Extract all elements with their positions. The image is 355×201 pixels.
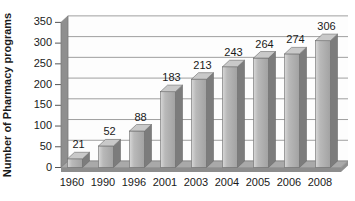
y-axis-title: Number of Pharmacy programs — [1, 13, 13, 177]
bar-value-label: 183 — [162, 71, 180, 83]
bar-front-face — [285, 54, 300, 168]
bar-front-face — [99, 146, 114, 168]
bar-front-face — [316, 41, 331, 168]
bar-side-face — [207, 73, 214, 168]
bar-value-label: 213 — [193, 59, 211, 71]
bar-front-face — [161, 92, 176, 168]
y-tick-label: 300 — [34, 36, 52, 48]
y-tick-label: 200 — [34, 78, 52, 90]
bar-front-face — [223, 67, 238, 168]
floor-front-edge — [61, 168, 341, 173]
bar-front-face — [130, 131, 145, 167]
bar-side-face — [238, 60, 245, 167]
x-axis-label: 1996 — [122, 176, 146, 188]
bar-side-face — [269, 52, 276, 168]
x-axis-label: 2006 — [277, 176, 301, 188]
x-axis-label: 1990 — [91, 176, 115, 188]
y-tick-label: 350 — [34, 15, 52, 27]
x-axis-label: 2001 — [153, 176, 177, 188]
x-axis-label: 2004 — [215, 176, 239, 188]
bar-front-face — [254, 58, 269, 167]
bar-side-face — [176, 85, 183, 167]
bar-value-label: 274 — [286, 33, 304, 45]
bar-value-label: 243 — [224, 46, 242, 58]
bar-value-label: 306 — [317, 20, 335, 32]
bar-value-label: 21 — [72, 138, 84, 150]
y-tick-label: 150 — [34, 98, 52, 110]
y-tick-label: 250 — [34, 57, 52, 69]
x-axis-label: 2005 — [246, 176, 270, 188]
y-tick-label: 0 — [46, 161, 52, 173]
bar-side-face — [300, 47, 307, 167]
bar-side-face — [145, 125, 152, 168]
bar-value-label: 264 — [255, 38, 273, 50]
pharmacy-programs-chart: 0501001502002503003502119605219908819961… — [0, 0, 355, 201]
bar-side-face — [331, 34, 338, 167]
x-axis-label: 1960 — [60, 176, 84, 188]
y-tick-label: 50 — [40, 140, 52, 152]
bar-front-face — [192, 79, 207, 167]
x-axis-label: 2003 — [184, 176, 208, 188]
y-tick-label: 100 — [34, 119, 52, 131]
x-axis-label: 2008 — [308, 176, 332, 188]
bar-value-label: 52 — [103, 125, 115, 137]
left-wall — [61, 16, 68, 168]
bar-front-face — [68, 159, 83, 168]
chart-figure: 0501001502002503003502119605219908819961… — [0, 0, 355, 201]
bar-value-label: 88 — [134, 111, 146, 123]
